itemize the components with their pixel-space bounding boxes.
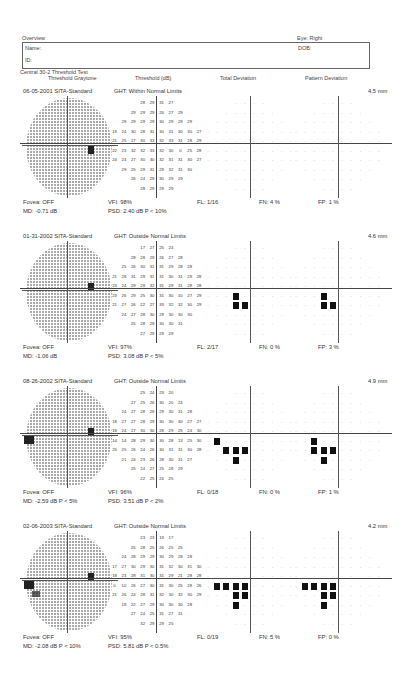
deviation-symbol: ·: [356, 166, 364, 174]
deviation-symbol: ·: [278, 156, 286, 164]
deviation-symbol: ·: [310, 166, 318, 174]
threshold-value: 31: [157, 283, 166, 288]
deviation-symbol: ·: [375, 572, 383, 580]
deviation-symbol: ·: [259, 330, 267, 338]
graytone-plot: [24, 96, 114, 198]
deviation-symbol: ·: [301, 273, 309, 281]
deviation-symbol: ·: [329, 147, 337, 155]
exam-block: 02-06-2003 SITA-StandardGHT: Outside Nor…: [0, 523, 402, 663]
threshold-value: 33: [157, 302, 166, 307]
threshold-value: 29: [157, 312, 166, 317]
deviation-symbol: ·: [338, 118, 346, 126]
deviation-symbol: ·: [329, 534, 337, 542]
deviation-symbol: ·: [347, 456, 355, 464]
threshold-value: 21: [110, 302, 119, 307]
deviation-symbol: ·: [232, 156, 240, 164]
threshold-value: 29: [129, 119, 138, 124]
threshold-value: 29: [166, 573, 175, 578]
deviation-symbol: ·: [329, 437, 337, 445]
threshold-value: 27: [129, 312, 138, 317]
threshold-value: 30: [185, 447, 194, 452]
deviation-symbol: ·: [250, 582, 258, 590]
threshold-value: 28: [119, 119, 128, 124]
deviation-symbol: ·: [329, 427, 337, 435]
deviation-symbol: ·: [310, 175, 318, 183]
threshold-value: 28: [138, 409, 147, 414]
threshold-value: 29: [185, 274, 194, 279]
graytone-plot: [24, 241, 114, 343]
threshold-value: 32: [176, 302, 185, 307]
deviation-symbol: ·: [250, 601, 258, 609]
deviation-symbol: ·: [222, 437, 230, 445]
fovea-status: Fovea: OFF: [23, 344, 54, 350]
deviation-symbol: ·: [366, 263, 374, 271]
deviation-symbol: ·: [301, 591, 309, 599]
deviation-symbol: ·: [338, 292, 346, 300]
threshold-value: 26: [148, 400, 157, 405]
deviation-symbol: ·: [241, 244, 249, 252]
deviation-symbol: ·: [259, 185, 267, 193]
threshold-value: 25: [166, 545, 175, 550]
threshold-value: 28: [138, 592, 147, 597]
threshold-value: 28: [166, 466, 175, 471]
deviation-symbol: ·: [338, 147, 346, 155]
deviation-symbol: ·: [241, 330, 249, 338]
deviation-symbol: ·: [347, 427, 355, 435]
deviation-symbol: ·: [259, 534, 267, 542]
deviation-symbol: ·: [268, 273, 276, 281]
deviation-symbol: ·: [320, 175, 328, 183]
threshold-value: 28: [185, 138, 194, 143]
threshold-value: 23: [119, 573, 128, 578]
threshold-value: 0: [110, 583, 119, 588]
threshold-value: 28: [138, 419, 147, 424]
deviation-symbol: ·: [259, 601, 267, 609]
threshold-value: 31: [138, 573, 147, 578]
deviation-symbol: [329, 591, 337, 599]
deviation-symbol: ·: [268, 408, 276, 416]
deviation-symbol: ·: [320, 475, 328, 483]
threshold-value: 24: [166, 245, 175, 250]
threshold-value: 28: [157, 428, 166, 433]
deviation-symbol: [241, 582, 249, 590]
deviation-symbol: ·: [366, 601, 374, 609]
deviation-symbol: ·: [356, 437, 364, 445]
threshold-value: 29: [138, 554, 147, 559]
deviation-symbol: ·: [338, 427, 346, 435]
threshold-value: 23: [148, 535, 157, 540]
threshold-value: 30: [185, 302, 194, 307]
deviation-symbol: ·: [250, 437, 258, 445]
deviation-symbol: ·: [259, 99, 267, 107]
deviation-symbol: ·: [250, 311, 258, 319]
deviation-symbol: ·: [310, 408, 318, 416]
deviation-symbol: ·: [259, 591, 267, 599]
deviation-symbol: ·: [204, 137, 212, 145]
threshold-value: 23: [157, 390, 166, 395]
deviation-symbol: ·: [241, 137, 249, 145]
deviation-symbol: ·: [268, 109, 276, 117]
threshold-value: 30: [157, 438, 166, 443]
deviation-symbol: ·: [338, 408, 346, 416]
deviation-symbol: ·: [375, 137, 383, 145]
deviation-symbol: ·: [347, 534, 355, 542]
threshold-value: 29: [176, 110, 185, 115]
threshold-value: 24: [138, 447, 147, 452]
deviation-symbol: ·: [250, 620, 258, 628]
deviation-symbol: ·: [347, 389, 355, 397]
deviation-symbol: ·: [259, 553, 267, 561]
deviation-symbol: ·: [268, 437, 276, 445]
deviation-symbol: ·: [222, 109, 230, 117]
threshold-value: 31: [148, 264, 157, 269]
threshold-value: 29: [138, 438, 147, 443]
deviation-symbol: ·: [292, 301, 300, 309]
threshold-value: 30: [185, 312, 194, 317]
deviation-symbol: ·: [241, 418, 249, 426]
threshold-value: 25: [129, 545, 138, 550]
deviation-symbol: ·: [241, 282, 249, 290]
deviation-symbol: ·: [232, 244, 240, 252]
deviation-symbol: ·: [310, 465, 318, 473]
deviation-symbol: ·: [338, 389, 346, 397]
deviation-symbol: ·: [250, 591, 258, 599]
deviation-symbol: ·: [347, 320, 355, 328]
threshold-value: 31: [148, 167, 157, 172]
deviation-symbol: ·: [268, 465, 276, 473]
